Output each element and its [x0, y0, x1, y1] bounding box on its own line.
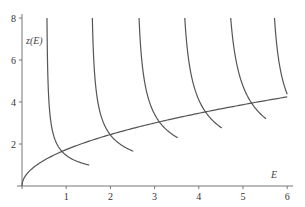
- y-tick-label: 2: [11, 139, 16, 150]
- x-tick-label: 1: [64, 191, 69, 202]
- x-axis-label: E: [270, 169, 277, 180]
- rising-curve: [22, 97, 287, 186]
- x-tick-label: 3: [152, 191, 157, 202]
- branch-curve-6: [274, 18, 287, 94]
- y-tick-label: 8: [11, 13, 16, 24]
- ticks: 1234562468: [11, 13, 290, 203]
- y-axis-label: z(E): [25, 35, 43, 47]
- x-tick-label: 4: [196, 191, 201, 202]
- x-tick-label: 5: [241, 191, 246, 202]
- chart: 1234562468 z(E) E: [0, 0, 305, 207]
- x-tick-label: 2: [108, 191, 113, 202]
- branch-curve-3: [139, 18, 178, 138]
- branch-curve-2: [92, 18, 133, 151]
- y-tick-label: 4: [11, 97, 16, 108]
- curves: [22, 18, 287, 186]
- y-tick-label: 6: [11, 55, 16, 66]
- branch-curve-4: [185, 18, 222, 128]
- x-tick-label: 6: [285, 191, 290, 202]
